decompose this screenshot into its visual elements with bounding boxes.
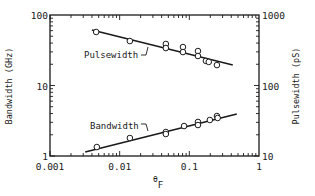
pulsewidth-point [93,29,99,35]
x-tick-label: 0.001 [36,161,65,172]
y-tick-labels: 110100 [31,10,48,162]
bandwidth-fit-line [85,114,237,152]
chart-canvas: 0.0010.010.11 110100 101001000 Pulsewidt… [0,0,315,196]
x-axis-title: θF [153,175,163,190]
y2-tick-label: 10 [262,151,274,162]
y-tick-label: 100 [31,10,48,21]
y2-tick-labels: 101001000 [262,10,285,162]
bandwidth-point [163,131,169,137]
x-tick-labels: 0.0010.010.11 [36,161,262,172]
bandwidth-label: Bandwidth [90,121,139,131]
bandwidth-leader [141,124,148,131]
y2-tick-label: 100 [262,81,279,92]
data-points [93,29,220,150]
x-tick-label: 0.1 [181,161,198,172]
bandwidth-point [181,123,187,129]
x-axis-title-sub: F [158,180,163,190]
pulsewidth-point [206,59,212,65]
x-tick-label: 0.01 [108,161,131,172]
pulsewidth-point [195,53,201,59]
series-labels: PulsewidthBandwidth [84,47,148,131]
pulsewidth-point [127,38,133,44]
y-tick-label: 10 [37,81,49,92]
pulsewidth-point [214,62,220,68]
y2-tick-label: 1000 [262,10,285,21]
y-axis-title: Bandwidth (GHz) [4,48,14,125]
fit-lines [85,30,237,152]
y2-axis-title: Pulsewidth (pS) [291,48,301,125]
bandwidth-point [215,115,221,121]
bandwidth-point [94,144,100,150]
pulsewidth-point [163,45,169,51]
y-tick-label: 1 [42,151,48,162]
x-tick-label: 1 [256,161,262,172]
pulsewidth-label: Pulsewidth [84,50,138,60]
bandwidth-point [207,117,213,123]
pulsewidth-leader [141,47,148,55]
pulsewidth-point [180,49,186,55]
bandwidth-point [195,122,201,128]
bandwidth-point [127,135,133,141]
